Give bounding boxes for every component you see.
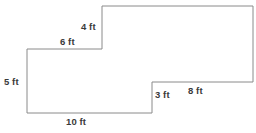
polygon-shape	[0, 0, 256, 133]
dimension-label-8ft: 8 ft	[188, 86, 203, 96]
dimension-label-4ft: 4 ft	[81, 22, 96, 32]
dimension-label-6ft: 6 ft	[60, 37, 75, 47]
composite-polygon-outline	[27, 6, 253, 113]
dimension-label-5ft: 5 ft	[4, 77, 19, 87]
geometry-figure: 4 ft 6 ft 5 ft 3 ft 8 ft 10 ft	[0, 0, 256, 133]
dimension-label-10ft: 10 ft	[66, 117, 86, 127]
dimension-label-3ft: 3 ft	[155, 90, 170, 100]
